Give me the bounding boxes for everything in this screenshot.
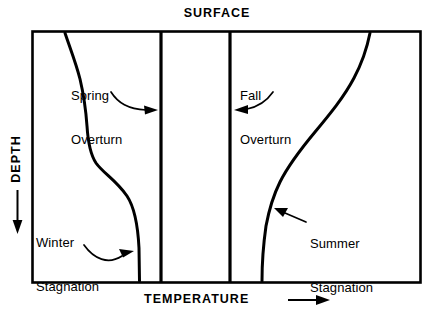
temperature-axis-label: TEMPERATURE — [144, 292, 249, 306]
winter-stagnation-annotation: Winter Stagnation — [36, 207, 99, 318]
depth-axis-label: DEPTH — [9, 127, 23, 191]
fall-overturn-line2: Overturn — [240, 133, 291, 148]
spring-overturn-annotation: Spring Overturn — [71, 60, 122, 176]
summer-stagnation-arrow-icon — [274, 208, 306, 222]
spring-overturn-line2: Overturn — [71, 133, 122, 148]
fall-overturn-annotation: Fall Overturn — [240, 60, 291, 176]
summer-stagnation-annotation: Summer Stagnation — [310, 208, 373, 318]
surface-label: SURFACE — [0, 6, 434, 20]
depth-arrow-down-icon — [13, 190, 23, 234]
thermal-stratification-diagram: SURFACE TEMPERATURE DEPTH Spring Overtur… — [0, 0, 434, 318]
winter-stagnation-line2: Stagnation — [36, 280, 99, 295]
summer-stagnation-line2: Stagnation — [310, 281, 373, 296]
winter-stagnation-line1: Winter — [36, 236, 99, 251]
summer-stagnation-line1: Summer — [310, 237, 373, 252]
fall-overturn-line1: Fall — [240, 89, 291, 104]
spring-overturn-line1: Spring — [71, 89, 122, 104]
